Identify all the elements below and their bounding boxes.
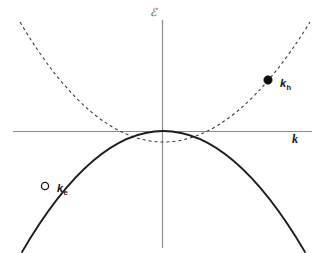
electron-state-label: ke (57, 183, 67, 194)
electron-state-label-subscript: e (63, 188, 67, 197)
hole-state-label-subscript: h (286, 83, 291, 92)
k-axis-label: k (292, 133, 298, 145)
band-diagram-canvas (0, 0, 323, 253)
energy-axis-label: ℰ (150, 7, 157, 18)
hole-state-label: kh (280, 78, 291, 89)
electron-state-marker (41, 182, 48, 189)
hole-state-marker (264, 76, 272, 84)
band-diagram-figure: ℰ k kh ke (0, 0, 323, 253)
